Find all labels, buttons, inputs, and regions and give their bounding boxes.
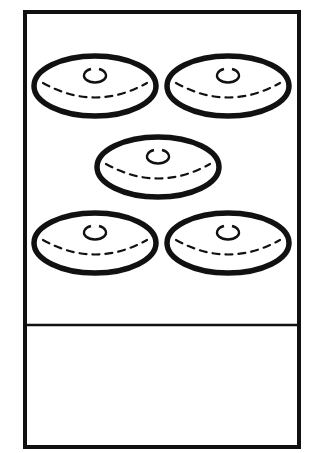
answer-area (25, 328, 299, 446)
bun-group (34, 56, 289, 273)
bun-top-left-icon (34, 56, 156, 116)
bun-outline (167, 213, 289, 273)
bun-bottom-left-icon (34, 213, 156, 273)
bun-outline (167, 56, 289, 116)
bun-outline (97, 137, 219, 197)
bun-bottom-right-icon (167, 213, 289, 273)
bun-top-right-icon (167, 56, 289, 116)
bun-outline (34, 56, 156, 116)
bun-outline (34, 213, 156, 273)
bun-center-icon (97, 137, 219, 197)
counting-card (0, 0, 318, 453)
